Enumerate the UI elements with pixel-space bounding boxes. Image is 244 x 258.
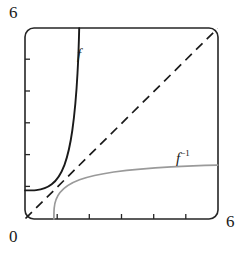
identity-dashed-line [26, 29, 218, 219]
origin-label: 0 [9, 228, 18, 245]
curve-f-inverse [54, 165, 218, 219]
function-inverse-figure: 6 0 6 f f−1 [0, 0, 244, 258]
plot-canvas [0, 0, 244, 258]
curve-label-f-inverse-exponent: −1 [180, 148, 190, 158]
curve-label-f: f [77, 47, 81, 62]
curve-f [25, 28, 79, 190]
x-max-label: 6 [226, 213, 235, 230]
curve-label-f-inverse: f−1 [176, 150, 190, 166]
y-max-label: 6 [9, 4, 18, 21]
